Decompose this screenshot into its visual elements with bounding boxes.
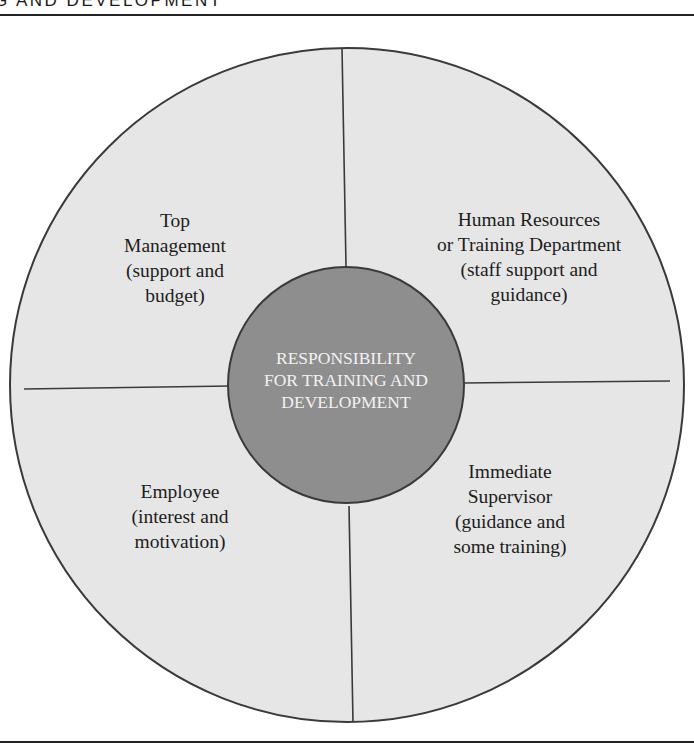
label-line: motivation) xyxy=(95,529,265,554)
label-line: guidance) xyxy=(389,282,669,307)
label-line: Supervisor xyxy=(415,484,605,509)
label-line: (interest and xyxy=(95,504,265,529)
label-line: Human Resources xyxy=(389,207,669,232)
center-label: RESPONSIBILITY FOR TRAINING AND DEVELOPM… xyxy=(231,347,461,413)
center-label-line: RESPONSIBILITY xyxy=(231,347,461,369)
label-line: Immediate xyxy=(415,459,605,484)
label-line: or Training Department xyxy=(389,232,669,257)
label-line: Management xyxy=(95,233,255,258)
label-line: Top xyxy=(95,208,255,233)
label-line: (support and xyxy=(95,258,255,283)
center-label-line: FOR TRAINING AND xyxy=(231,369,461,391)
label-line: Employee xyxy=(95,479,265,504)
label-line: budget) xyxy=(95,283,255,308)
label-line: some training) xyxy=(415,534,605,559)
quadrant-label-employee: Employee (interest and motivation) xyxy=(95,479,265,554)
center-label-line: DEVELOPMENT xyxy=(231,391,461,413)
label-line: (guidance and xyxy=(415,509,605,534)
quadrant-label-immediate-supervisor: Immediate Supervisor (guidance and some … xyxy=(415,459,605,559)
bottom-rule xyxy=(0,741,694,743)
quadrant-label-top-management: Top Management (support and budget) xyxy=(95,208,255,308)
quadrant-label-human-resources: Human Resources or Training Department (… xyxy=(389,207,669,307)
label-line: (staff support and xyxy=(389,257,669,282)
